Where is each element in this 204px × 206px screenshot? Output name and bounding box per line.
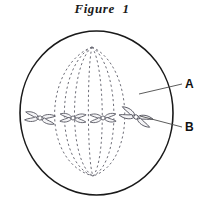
centromere — [101, 116, 105, 120]
figure-container: Figure 1 — [0, 0, 204, 206]
callout-label-a: A — [185, 78, 194, 90]
cell-diagram — [0, 0, 204, 206]
centromere — [71, 116, 75, 120]
centromere — [38, 116, 43, 121]
callout-label-b: B — [185, 121, 194, 133]
